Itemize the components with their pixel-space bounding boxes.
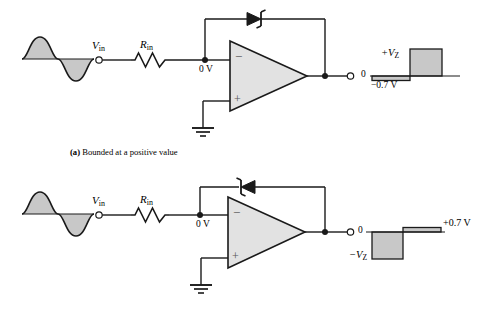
circuit-svg — [0, 0, 481, 314]
input-waveform-a — [22, 37, 94, 81]
rin-label-b: Rin — [140, 194, 153, 207]
output-lower-label-a: −0.7 V — [371, 81, 397, 91]
vin-terminal-a — [96, 57, 102, 63]
vin-terminal-b — [96, 212, 102, 218]
output-waveform-b — [366, 228, 445, 260]
zener-diode-b — [237, 178, 256, 196]
figure-canvas: Vin Rin 0 V − + 0 +VZ −0.7 V (a) Bounded… — [0, 0, 481, 314]
node-voltage-label-b: 0 V — [196, 220, 210, 230]
node-voltage-label-a: 0 V — [199, 65, 213, 75]
output-upper-label-a: +VZ — [381, 48, 399, 59]
caption-a-text: Bounded at a positive value — [82, 147, 177, 157]
caption-a-prefix: (a) — [70, 147, 80, 157]
resistor-rin-a — [131, 53, 169, 67]
vin-label-b: Vin — [92, 195, 105, 208]
output-zero-label-a: 0 — [361, 70, 366, 80]
opamp-minus-label-b: − — [233, 206, 240, 219]
opamp-minus-label-a: − — [235, 50, 242, 63]
opamp-plus-label-a: + — [234, 93, 241, 105]
panel-b-circuit — [22, 178, 445, 293]
output-zero-label-b: 0 — [358, 226, 363, 236]
resistor-rin-b — [131, 208, 169, 222]
panel-a-circuit — [22, 10, 460, 136]
output-terminal-a — [347, 73, 353, 79]
output-upper-label-b: +0.7 V — [443, 218, 471, 228]
input-waveform-b — [22, 192, 94, 236]
caption-a: (a) Bounded at a positive value — [70, 147, 178, 157]
output-lower-label-b: −VZ — [349, 250, 367, 261]
opamp-plus-label-b: + — [232, 250, 239, 262]
ground-symbol-a — [192, 128, 214, 136]
vin-label-a: Vin — [92, 40, 105, 53]
rin-label-a: Rin — [140, 39, 153, 52]
ground-symbol-b — [190, 285, 212, 293]
output-terminal-b — [347, 229, 353, 235]
